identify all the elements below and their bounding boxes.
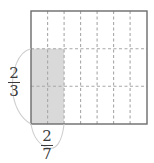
width-fraction-label: 2 7 xyxy=(36,127,58,163)
height-fraction-numerator: 2 xyxy=(8,66,20,81)
width-fraction-denominator: 7 xyxy=(41,147,53,162)
height-fraction-denominator: 3 xyxy=(8,84,20,99)
height-fraction-label: 2 3 xyxy=(3,62,25,102)
figure-canvas: 2 3 2 7 xyxy=(0,0,154,163)
width-fraction-numerator: 2 xyxy=(41,129,53,144)
